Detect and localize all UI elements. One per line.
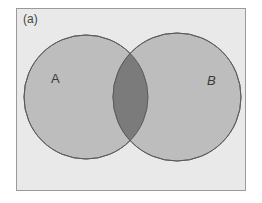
venn-diagram [0, 0, 262, 203]
set-a-label: A [51, 72, 60, 86]
set-b-label: B [207, 74, 216, 88]
